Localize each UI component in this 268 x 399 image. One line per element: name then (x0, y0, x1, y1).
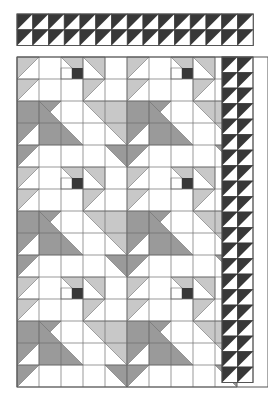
patch-square-dark-accent (182, 178, 193, 189)
patch-square-white-notch (171, 288, 182, 299)
patch-square-white-notch (61, 178, 72, 189)
quilt-vector-art (0, 0, 268, 399)
patch-square-dark-accent (72, 68, 83, 79)
patch-square-dark-accent (182, 68, 193, 79)
quilt-diagram-canvas: Pieced quilt layout diagram Monochrome q… (0, 0, 268, 399)
patch-square-dark-accent (182, 288, 193, 299)
patch-square-white-notch (61, 288, 72, 299)
patch-square-white-notch (171, 68, 182, 79)
sawtooth-border-right (222, 57, 253, 383)
patch-square-dark-accent (72, 288, 83, 299)
patch-square-dark-accent (72, 178, 83, 189)
patch-square-white-notch (171, 178, 182, 189)
patch-square-white-notch (61, 68, 72, 79)
quilt-field (17, 57, 237, 387)
sawtooth-border-strip (17, 14, 253, 46)
